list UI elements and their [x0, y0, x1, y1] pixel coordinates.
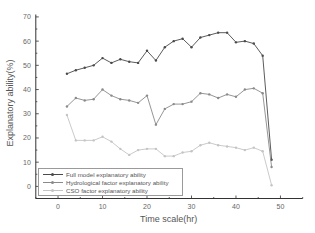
- data-point: [92, 139, 94, 141]
- x-tick-label: 10: [99, 203, 107, 210]
- data-point: [137, 62, 139, 64]
- x-tick-label: 50: [277, 203, 285, 210]
- data-point: [235, 146, 237, 148]
- data-point: [164, 46, 166, 48]
- data-point: [101, 57, 103, 59]
- legend-swatch-full-model: [43, 174, 63, 175]
- data-point: [119, 148, 121, 150]
- y-tick-label: 0: [27, 183, 31, 190]
- data-point: [253, 87, 255, 89]
- x-axis-label: Time scale(hr): [140, 214, 197, 224]
- data-point: [208, 34, 210, 36]
- data-point: [217, 97, 219, 99]
- series-lines: [66, 31, 273, 186]
- data-point: [119, 58, 121, 60]
- data-point: [128, 99, 130, 101]
- data-point: [244, 40, 246, 42]
- data-point: [244, 149, 246, 151]
- data-point: [261, 92, 263, 94]
- x-tick-label: 0: [56, 203, 60, 210]
- data-point: [172, 103, 174, 105]
- data-point: [84, 99, 86, 101]
- data-point: [253, 146, 255, 148]
- data-point: [119, 98, 121, 100]
- data-point: [208, 142, 210, 144]
- x-tick-label: 40: [232, 203, 240, 210]
- data-point: [110, 140, 112, 142]
- data-point: [84, 67, 86, 69]
- data-point: [199, 144, 201, 146]
- data-point: [75, 139, 77, 141]
- y-axis-label: Explanatory ability(%): [5, 48, 15, 158]
- legend-swatch-cso: [43, 190, 63, 191]
- data-point: [181, 151, 183, 153]
- data-point: [181, 103, 183, 105]
- x-tick-label: 30: [188, 203, 196, 210]
- data-point: [244, 88, 246, 90]
- data-point: [226, 145, 228, 147]
- data-point: [164, 108, 166, 110]
- y-tick-label: 40: [23, 86, 31, 93]
- data-point: [137, 102, 139, 104]
- data-point: [146, 94, 148, 96]
- legend-swatch-hydrological: [43, 182, 63, 183]
- y-tick-label: 50: [23, 62, 31, 69]
- y-tick-label: 60: [23, 38, 31, 45]
- data-point: [128, 154, 130, 156]
- data-point: [155, 148, 157, 150]
- data-point: [92, 98, 94, 100]
- data-point: [110, 94, 112, 96]
- data-point: [199, 92, 201, 94]
- x-tick-label: 20: [143, 203, 151, 210]
- data-point: [172, 40, 174, 42]
- y-tick-label: 10: [23, 159, 31, 166]
- legend-item-cso: CSO factor explanatory ability: [43, 186, 148, 194]
- data-point: [110, 62, 112, 64]
- data-point: [217, 144, 219, 146]
- data-point: [164, 155, 166, 157]
- y-tick-label: 20: [23, 134, 31, 141]
- legend-label: Hydrological factor explanatory ability: [66, 179, 169, 186]
- data-point: [226, 31, 228, 33]
- data-point: [190, 46, 192, 48]
- legend-label: Full model explanatory ability: [66, 171, 146, 178]
- legend-item-hydrological: Hydrological factor explanatory ability: [43, 178, 169, 186]
- y-tick-label: 70: [23, 13, 31, 20]
- data-point: [101, 88, 103, 90]
- data-point: [66, 73, 68, 75]
- data-point: [270, 166, 272, 168]
- data-point: [84, 139, 86, 141]
- data-point: [137, 149, 139, 151]
- legend: Full model explanatory ability Hydrologi…: [38, 168, 183, 196]
- data-point: [226, 93, 228, 95]
- data-point: [66, 105, 68, 107]
- data-point: [101, 136, 103, 138]
- legend-label: CSO factor explanatory ability: [66, 187, 148, 194]
- data-point: [190, 100, 192, 102]
- data-point: [181, 38, 183, 40]
- data-point: [66, 114, 68, 116]
- data-point: [270, 184, 272, 186]
- data-point: [146, 148, 148, 150]
- data-point: [217, 31, 219, 33]
- data-point: [75, 69, 77, 71]
- data-point: [261, 54, 263, 56]
- legend-item-full-model: Full model explanatory ability: [43, 170, 146, 178]
- data-point: [261, 150, 263, 152]
- data-point: [253, 42, 255, 44]
- data-point: [155, 59, 157, 61]
- data-point: [190, 150, 192, 152]
- data-point: [172, 155, 174, 157]
- data-point: [75, 97, 77, 99]
- data-point: [146, 50, 148, 52]
- data-point: [235, 96, 237, 98]
- data-point: [199, 36, 201, 38]
- data-point: [235, 41, 237, 43]
- y-tick-label: 30: [23, 110, 31, 117]
- data-point: [92, 64, 94, 66]
- data-point: [128, 61, 130, 63]
- data-point: [208, 93, 210, 95]
- line-chart: 01020304050607001020304050: [0, 0, 315, 233]
- data-point: [155, 123, 157, 125]
